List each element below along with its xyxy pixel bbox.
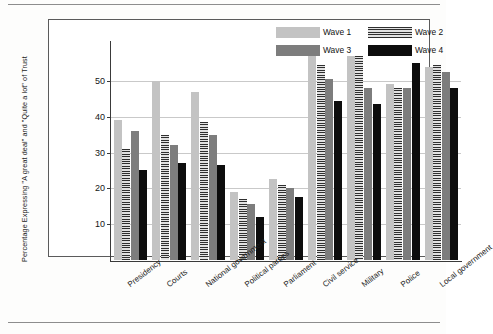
chart-legend: Wave 1 Wave 2 Wave 3 Wave 4 [276,25,424,57]
bar-group [191,45,225,260]
bar [131,131,139,260]
bar [347,56,355,260]
bar [200,122,208,260]
bar [230,192,238,260]
bar [425,67,433,261]
x-axis-tick-label: Parliament [282,258,318,289]
bar [152,81,160,260]
bar [170,145,178,260]
bar [334,101,342,260]
legend-swatch-wave-2 [368,27,412,38]
y-axis-tick [107,153,111,154]
page-divider-bottom [8,322,440,323]
bar-group [230,45,264,260]
bar-group [425,45,459,260]
bar [191,92,199,260]
bar [269,179,277,260]
bar-group [308,45,342,260]
bar [433,65,441,260]
bar-group [114,45,148,260]
x-axis-line [110,261,462,262]
legend-swatch-wave-1 [276,27,320,38]
bar-group [152,45,186,260]
bar [364,88,372,260]
bar [373,104,381,260]
bar [450,88,458,260]
bar [394,88,402,260]
legend-label-wave-2: Wave 2 [415,27,445,37]
bar [308,56,316,260]
bar [139,170,147,260]
bar [442,72,450,260]
legend-swatch-wave-4 [368,45,412,56]
y-axis-tick [107,224,111,225]
x-axis-tick-label: Military [360,266,386,289]
bar [122,149,130,260]
x-axis-tick-label: Presidency [126,258,163,289]
y-axis-tick-label: 40 [95,112,105,122]
bar [178,163,186,260]
bar [217,165,225,260]
bar [295,197,303,260]
y-axis-tick [107,188,111,189]
bar [286,188,294,260]
bar [403,88,411,260]
bar [325,79,333,260]
y-axis-tick-label: 50 [95,76,105,86]
bar [412,63,420,260]
y-axis-tick-label: 10 [95,219,105,229]
x-axis-tick-label: Courts [165,267,189,289]
y-axis-tick [107,117,111,118]
bar [386,84,394,260]
x-axis-tick-label: Police [399,269,422,290]
bar [317,65,325,260]
bar-group [386,45,420,260]
chart-figure: 1020304050 Wave 1 Wave 2 Wave 3 Wave 4 P… [48,19,430,257]
bar-group [269,45,303,260]
bar-group [347,45,381,260]
y-axis-tick [107,81,111,82]
y-axis-tick-label: 20 [95,183,105,193]
legend-swatch-wave-3 [276,45,320,56]
legend-label-wave-1: Wave 1 [323,27,365,37]
bar [114,120,122,260]
legend-label-wave-3: Wave 3 [323,45,365,55]
bar [355,56,363,260]
y-axis-title: Percentage Expressing "A great deal" and… [20,12,32,262]
bar [161,135,169,260]
y-axis-tick-label: 30 [95,148,105,158]
page-divider-top [8,4,440,5]
legend-label-wave-4: Wave 4 [415,45,445,55]
plot-area: 1020304050 [111,45,461,260]
bar [209,135,217,260]
